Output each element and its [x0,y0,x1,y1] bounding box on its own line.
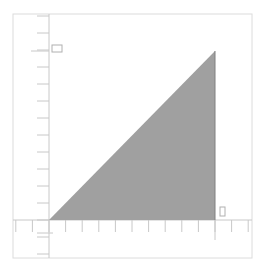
y-marker-box [52,45,62,52]
triangle-diagram [0,0,265,270]
right-triangle [49,51,215,220]
x-marker-box [220,207,225,216]
